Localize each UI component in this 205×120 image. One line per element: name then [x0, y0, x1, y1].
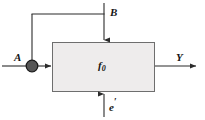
- block-label-subscript: 0: [102, 64, 106, 73]
- summing-junction-node: [26, 60, 38, 72]
- block-diagram-canvas: A B Y e′ f0: [0, 0, 205, 120]
- block-label-f0: f0: [98, 60, 106, 71]
- signal-label-y: Y: [176, 52, 183, 63]
- prime-mark: ′: [114, 96, 117, 107]
- signal-label-a: A: [14, 52, 21, 63]
- signal-label-e-prime: e′: [109, 98, 117, 113]
- signal-label-b: B: [110, 7, 117, 18]
